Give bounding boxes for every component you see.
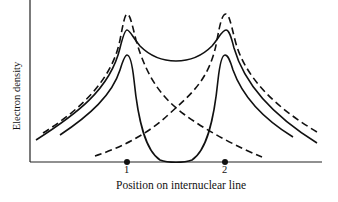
nucleus-2-label: 2 xyxy=(222,164,227,175)
bonding-density-curve xyxy=(36,30,317,143)
y-axis-label: Electron density xyxy=(11,62,22,131)
x-axis-label: Position on internuclear line xyxy=(116,179,246,191)
atomic-density-nucleus-2-curve xyxy=(95,14,317,156)
antibonding-density-curve xyxy=(60,55,293,162)
nucleus-1-label: 1 xyxy=(124,164,129,175)
atomic-density-nucleus-1-curve xyxy=(43,14,262,157)
electron-density-diagram xyxy=(0,0,338,202)
